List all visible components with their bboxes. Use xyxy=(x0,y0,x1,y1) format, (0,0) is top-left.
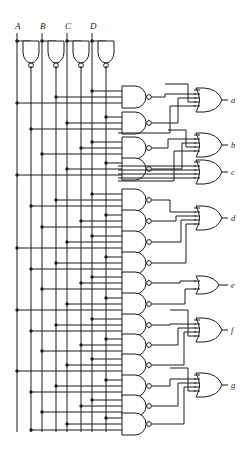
or-gates xyxy=(196,88,222,397)
inverter-D xyxy=(98,41,114,68)
or-gate-c xyxy=(196,160,222,184)
circuit-svg: A B C D xyxy=(0,0,245,460)
output-label-f: f xyxy=(231,325,235,335)
or-gate-f xyxy=(196,318,222,342)
or-gate-e xyxy=(196,276,219,294)
output-label-e: e xyxy=(231,280,235,290)
or-gate-d xyxy=(196,206,222,230)
or-gate-b xyxy=(196,133,222,157)
or-input-hash-marks xyxy=(194,90,200,391)
output-label-a: a xyxy=(231,95,235,105)
output-label-c: c xyxy=(231,167,235,177)
output-label-d: d xyxy=(231,213,236,223)
or-gate-a xyxy=(196,88,222,112)
output-labels: a b c d e f g xyxy=(231,95,236,390)
inverters xyxy=(23,41,114,68)
output-label-g: g xyxy=(231,380,235,390)
input-label-A: A xyxy=(14,21,21,31)
input-label-B: B xyxy=(40,21,46,31)
or-gate-g xyxy=(196,373,222,397)
inverter-B xyxy=(48,41,64,68)
logic-diagram-canvas: A B C D xyxy=(0,0,245,460)
input-labels: A B C D xyxy=(14,21,97,31)
inverter-C xyxy=(73,41,89,68)
input-label-C: C xyxy=(65,21,72,31)
inverter-A xyxy=(23,41,39,68)
input-label-D: D xyxy=(89,21,97,31)
bus-tap-dots xyxy=(15,89,107,431)
nand-gates xyxy=(122,86,151,435)
output-label-b: b xyxy=(231,140,235,150)
